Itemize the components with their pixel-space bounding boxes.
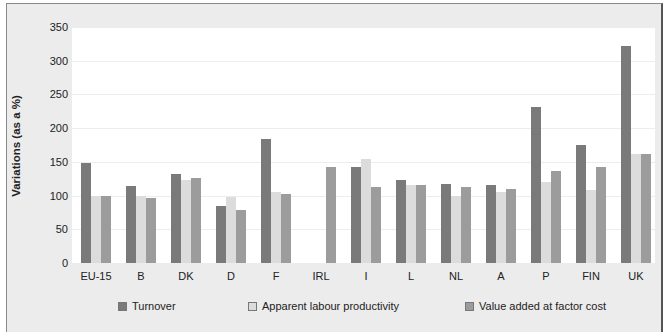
bar-f-2 bbox=[281, 194, 291, 263]
x-tick-label: UK bbox=[614, 270, 659, 282]
legend-swatch-icon bbox=[118, 302, 127, 311]
legend-swatch-icon bbox=[248, 302, 257, 311]
bar-b-0 bbox=[126, 186, 136, 263]
x-tick-label: I bbox=[344, 270, 389, 282]
y-tick-label: 200 bbox=[28, 122, 68, 134]
y-tick-label: 300 bbox=[28, 55, 68, 67]
legend-label: Value added at factor cost bbox=[479, 300, 606, 312]
legend-label: Turnover bbox=[132, 300, 176, 312]
legend-item: Value added at factor cost bbox=[465, 300, 606, 312]
bar-d-1 bbox=[226, 197, 236, 263]
bar-uk-0 bbox=[621, 46, 631, 263]
bar-dk-2 bbox=[191, 178, 201, 263]
bar-l-2 bbox=[416, 185, 426, 263]
y-tick-label: 100 bbox=[28, 190, 68, 202]
bar-a-0 bbox=[486, 185, 496, 263]
bar-fin-1 bbox=[586, 190, 596, 263]
bar-nl-0 bbox=[441, 184, 451, 263]
x-tick-label: NL bbox=[434, 270, 479, 282]
x-tick-label: DK bbox=[164, 270, 209, 282]
bar-eu-15-1 bbox=[91, 196, 101, 263]
bar-f-1 bbox=[271, 192, 281, 263]
x-tick-label: FIN bbox=[569, 270, 614, 282]
bar-f-0 bbox=[261, 139, 271, 263]
bar-a-2 bbox=[506, 189, 516, 263]
x-tick-label: D bbox=[209, 270, 254, 282]
gridline bbox=[72, 128, 655, 129]
bar-fin-0 bbox=[576, 145, 586, 263]
y-tick-label: 250 bbox=[28, 88, 68, 100]
x-tick-label: F bbox=[254, 270, 299, 282]
bar-fin-2 bbox=[596, 167, 606, 263]
bar-p-0 bbox=[531, 107, 541, 263]
legend-swatch-icon bbox=[465, 302, 474, 311]
bar-i-1 bbox=[361, 159, 371, 263]
y-tick-label: 150 bbox=[28, 156, 68, 168]
gridline bbox=[72, 94, 655, 95]
bar-nl-2 bbox=[461, 187, 471, 263]
legend-label: Apparent labour productivity bbox=[262, 300, 399, 312]
x-tick-label: L bbox=[389, 270, 434, 282]
bar-b-1 bbox=[136, 196, 146, 263]
bar-i-2 bbox=[371, 187, 381, 263]
bar-p-1 bbox=[541, 182, 551, 263]
bar-eu-15-0 bbox=[81, 163, 91, 263]
bar-nl-1 bbox=[451, 196, 461, 263]
bar-i-0 bbox=[351, 167, 361, 263]
bar-d-2 bbox=[236, 210, 246, 263]
bar-uk-2 bbox=[641, 154, 651, 263]
x-tick-label: EU-15 bbox=[74, 270, 119, 282]
bar-p-2 bbox=[551, 171, 561, 263]
bar-dk-0 bbox=[171, 174, 181, 263]
bar-irl-2 bbox=[326, 167, 336, 263]
bar-a-1 bbox=[496, 192, 506, 263]
legend-item: Turnover bbox=[118, 300, 176, 312]
bar-b-2 bbox=[146, 198, 156, 263]
y-tick-label: 350 bbox=[28, 21, 68, 33]
bar-dk-1 bbox=[181, 180, 191, 263]
bar-uk-1 bbox=[631, 154, 641, 263]
gridline bbox=[72, 61, 655, 62]
gridline bbox=[72, 27, 655, 28]
x-tick-label: P bbox=[524, 270, 569, 282]
x-tick-label: B bbox=[119, 270, 164, 282]
x-tick-label: IRL bbox=[299, 270, 344, 282]
x-tick-label: A bbox=[479, 270, 524, 282]
bar-eu-15-2 bbox=[101, 196, 111, 263]
bar-d-0 bbox=[216, 206, 226, 263]
bar-l-1 bbox=[406, 185, 416, 263]
legend-item: Apparent labour productivity bbox=[248, 300, 399, 312]
y-tick-label: 0 bbox=[28, 257, 68, 269]
y-axis-label: Variations (as a %) bbox=[10, 95, 22, 197]
plot-area bbox=[72, 27, 655, 263]
y-tick-label: 50 bbox=[28, 223, 68, 235]
bar-l-0 bbox=[396, 180, 406, 263]
